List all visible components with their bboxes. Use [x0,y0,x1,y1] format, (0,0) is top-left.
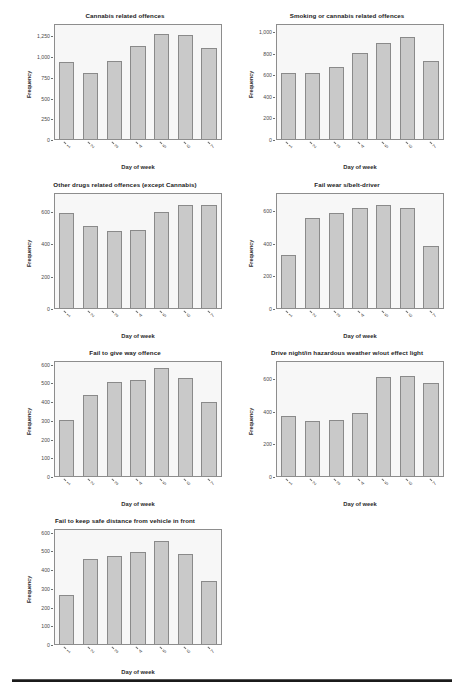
x-tick-label: 5 [383,312,389,318]
bar [305,73,320,139]
x-axis-label: Day of week [54,501,222,508]
y-axis-ticks: 0200400600 [240,361,272,477]
bar [178,554,193,644]
y-tick-label: 100 [41,455,50,461]
y-axis-label: Frequency [26,408,32,435]
y-tick-label: 0 [269,137,272,143]
y-tick-label: 400 [41,241,50,247]
x-tick-label: 3 [113,480,119,486]
y-axis-label: Frequency [248,408,254,435]
bar [59,595,74,644]
bar-series [277,362,443,476]
y-tick-label: 400 [41,567,50,573]
x-tick-label: 2 [311,312,317,318]
bar [352,208,367,308]
chart-title: Drive night/in hazardous weather w/out e… [240,349,454,357]
bar [107,231,122,308]
bar-series [55,194,221,308]
bar [130,380,145,476]
bar [201,205,216,308]
y-tick-label: 0 [269,306,272,312]
x-tick-label: 1 [65,648,71,654]
x-tick-label: 5 [383,143,389,149]
x-tick-label: 7 [431,480,437,486]
bar-series [277,194,443,308]
bar [329,213,344,308]
x-tick-label: 3 [335,312,341,318]
y-tick-label: 600 [41,362,50,368]
bar [376,43,391,140]
x-axis-ticks: 1234567 [54,649,222,665]
bar [107,556,122,644]
x-tick-label: 6 [407,480,413,486]
y-tick-label: 200 [41,605,50,611]
y-tick-label: 1,000 [259,29,272,35]
x-tick-label: 4 [359,143,365,149]
y-axis-ticks: 0200400600 [18,193,50,309]
bar [154,368,169,476]
bar [423,246,438,308]
bar [352,53,367,139]
bar [281,73,296,139]
y-tick-label: 750 [41,75,50,81]
chart-panel-fail-wear-seatbelt-driver: Fail wear s/belt-driver02004006001234567… [240,181,454,353]
y-tick-label: 600 [263,208,272,214]
bar [130,230,145,308]
bar [400,376,415,476]
x-tick-label: 7 [431,143,437,149]
x-tick-label: 3 [335,143,341,149]
y-tick-label: 0 [269,474,272,480]
bar [400,208,415,308]
x-tick-label: 5 [161,143,167,149]
plot-area [276,24,444,140]
x-tick-label: 7 [431,312,437,318]
x-tick-label: 1 [65,143,71,149]
plot-area [54,193,222,309]
x-tick-label: 3 [113,648,119,654]
y-tick-label: 250 [41,116,50,122]
y-tick-label: 200 [263,115,272,121]
x-tick-label: 6 [185,648,191,654]
chart-panel-other-drugs-related-offences: Other drugs related offences (except Can… [18,181,232,353]
plot-area [54,24,222,140]
bar [59,213,74,308]
x-axis-ticks: 1234567 [54,313,222,329]
x-tick-label: 2 [89,480,95,486]
y-tick-label: 600 [263,72,272,78]
y-axis-ticks: 0100200300400500600 [18,529,50,645]
bar [376,377,391,476]
plot-area [276,193,444,309]
x-tick-label: 6 [185,143,191,149]
plot-area [54,529,222,645]
bar [154,541,169,644]
x-axis-ticks: 1234567 [276,313,444,329]
x-axis-label: Day of week [54,333,222,340]
y-tick-label: 400 [263,94,272,100]
x-tick-label: 6 [407,312,413,318]
y-tick-label: 0 [47,306,50,312]
y-tick-label: 1,000 [37,54,50,60]
chart-title: Fail to keep safe distance from vehicle … [18,517,232,525]
y-tick-label: 400 [263,241,272,247]
bar [154,34,169,139]
x-axis-label: Day of week [54,669,222,676]
x-tick-label: 2 [89,143,95,149]
bottom-horizontal-rule [12,679,452,682]
bar [178,378,193,476]
bar [83,395,98,476]
x-tick-label: 4 [137,648,143,654]
bar-series [55,530,221,644]
bar [83,226,98,308]
y-tick-label: 500 [41,548,50,554]
bar [423,383,438,476]
bar [83,73,98,139]
y-tick-label: 600 [41,209,50,215]
y-axis-ticks: 02505007501,0001,250 [18,24,50,140]
bar [178,35,193,139]
bar [201,581,216,644]
chart-title: Fail to give way offence [18,349,232,357]
x-tick-label: 3 [113,312,119,318]
y-tick-label: 0 [47,137,50,143]
y-tick-label: 500 [41,96,50,102]
chart-title: Cannabis related offences [18,12,232,20]
